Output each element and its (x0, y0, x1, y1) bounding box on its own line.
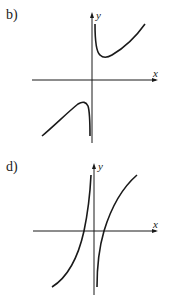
graphs-canvas: x y x y (0, 0, 173, 305)
y-axis-arrow-icon (92, 163, 96, 169)
curve-upper-branch (95, 24, 145, 57)
y-axis-label: y (95, 9, 101, 21)
x-axis-label: x (152, 218, 158, 230)
graph-b: x y (32, 9, 158, 143)
curve-lower-branch (42, 102, 90, 136)
y-axis-label: y (97, 160, 103, 172)
x-axis-label: x (152, 67, 158, 79)
y-axis-arrow-icon (90, 12, 94, 18)
graph-d: x y (33, 160, 158, 295)
